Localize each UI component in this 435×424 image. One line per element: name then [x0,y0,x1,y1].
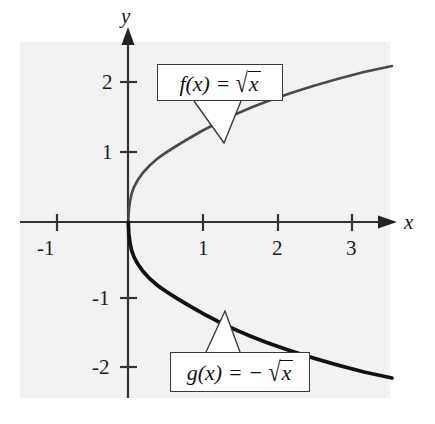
x-axis-name: x [404,212,413,233]
y-tick-label--2: -2 [92,357,110,378]
x-tick-label-3: 3 [346,238,357,259]
x-tick-label-2: 2 [272,238,283,259]
x-axis-arrowhead [378,216,397,229]
y-tick-label-2: 2 [102,72,113,93]
y-tick-label-1: 1 [102,142,113,163]
callout-g-arg: (x) = − [198,360,269,385]
callout-f-radicand: x [248,71,261,95]
sqrt-icon-g: √ [268,358,280,386]
callout-g-prefix: g [187,360,198,385]
callout-box-f: f(x) = √x [157,64,283,101]
figure-root: -1 1 2 3 2 1 -1 -2 y x f(x) = √x g(x) = … [0,0,435,424]
x-tick-label--1: -1 [37,238,55,259]
callout-pointer-f [194,101,241,143]
y-tick-label--1: -1 [92,288,110,309]
callout-label-g: g(x) = − √x [187,360,293,384]
callout-g-radicand: x [280,360,293,384]
sqrt-icon-f: √ [236,69,248,97]
y-axis-arrowhead [122,27,135,45]
callout-f-arg: (x) = [186,71,236,96]
x-tick-label-1: 1 [198,238,209,259]
callout-box-g: g(x) = − √x [170,352,310,392]
y-axis-name: y [121,6,130,27]
callout-label-f: f(x) = √x [179,71,260,95]
